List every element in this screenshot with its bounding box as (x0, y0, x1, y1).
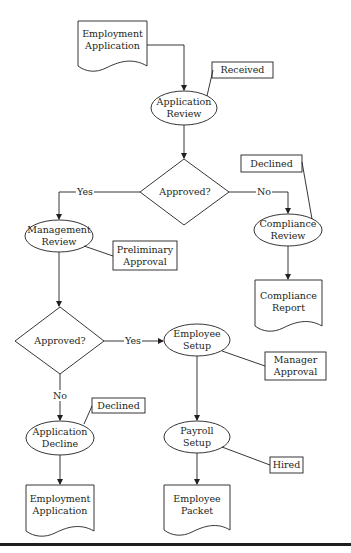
label-line: Compliance (260, 218, 317, 230)
connector-decision-1-yes (59, 192, 140, 219)
label-line: Approved? (34, 335, 85, 347)
node-label-received: Received (212, 62, 273, 78)
annotation-leader-declined-1 (302, 162, 312, 219)
connector-start-to-review (147, 45, 184, 90)
edge-label-decision-1-no: No (256, 186, 272, 197)
node-label-declined-2: Declined (92, 398, 145, 413)
label-line: Compliance (260, 290, 317, 302)
label-line: Review (167, 108, 202, 120)
node-label-application-review: Application Review (151, 92, 217, 124)
label-line: Application (33, 505, 88, 517)
label-line: Application (33, 426, 88, 438)
node-label-hired: Hired (270, 457, 303, 473)
label-line: Hired (273, 459, 301, 471)
label-line: Application (157, 96, 212, 108)
label-line: Payroll (180, 425, 213, 437)
label-line: Employee (173, 328, 220, 340)
bottom-rule-divider (0, 543, 351, 546)
label-line: Review (42, 236, 77, 248)
edge-label-decision-1-yes: Yes (76, 186, 94, 197)
label-line: Packet (181, 505, 213, 517)
label-line: Employment (30, 493, 91, 505)
node-label-employee-packet: Employee Packet (164, 489, 230, 521)
edge-label-decision-2-yes: Yes (124, 335, 142, 346)
node-label-compliance-review: Compliance Review (254, 214, 322, 246)
node-label-application-decline: Application Decline (26, 422, 94, 454)
label-line: Setup (183, 340, 211, 352)
label-line: Application (85, 40, 140, 52)
node-label-employee-setup: Employee Setup (164, 324, 230, 356)
label-line: Declined (97, 400, 139, 412)
label-line: Employee (173, 493, 220, 505)
label-line: Manager (274, 354, 317, 366)
label-line: Preliminary (117, 244, 173, 256)
label-line: Report (272, 302, 305, 314)
node-label-approved-1: Approved? (150, 184, 220, 200)
edge-label-decision-2-no: No (52, 390, 68, 401)
label-line: Decline (42, 438, 78, 450)
node-label-employment-application-start: Employment Application (78, 24, 147, 56)
node-label-manager-approval: Manager Approval (265, 352, 326, 380)
label-line: Approval (274, 366, 317, 378)
label-line: Approved? (159, 186, 210, 198)
label-line: Employment (82, 28, 143, 40)
label-line: Review (271, 230, 306, 242)
node-label-management-review: Management Review (24, 220, 94, 252)
label-line: Management (27, 224, 90, 236)
label-line: Approval (123, 256, 166, 268)
node-label-preliminary-approval: Preliminary Approval (113, 241, 177, 270)
node-label-payroll-setup: Payroll Setup (164, 421, 230, 453)
label-line: Setup (183, 437, 211, 449)
label-line: Declined (250, 158, 292, 170)
label-line: Received (221, 64, 265, 76)
node-label-compliance-report: Compliance Report (255, 286, 322, 318)
flowchart-diagram: Employment Application Application Revie… (0, 0, 351, 553)
node-label-approved-2: Approved? (25, 333, 95, 349)
node-label-employment-application-end: Employment Application (26, 489, 94, 521)
node-label-declined-1: Declined (241, 155, 302, 172)
